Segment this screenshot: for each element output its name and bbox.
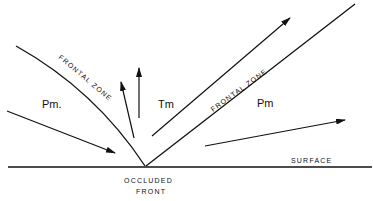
air-mass-pm-left: Pm. — [42, 98, 62, 110]
air-mass-tm: Tm — [158, 98, 174, 110]
occluded-front-label-line2: FRONT — [136, 188, 166, 195]
warm-rising-arrow — [152, 18, 290, 136]
cold-air-arrow-right — [205, 120, 345, 146]
cold-air-arrow-left — [7, 111, 115, 153]
air-mass-pm-right: Pm — [257, 97, 274, 109]
occluded-front-label-line1: OCCLUDED — [124, 177, 173, 184]
upward-arrow-tilted — [121, 82, 134, 138]
surface-label: SURFACE — [291, 157, 332, 164]
occluded-front-diagram: FRONTAL ZONE FRONTAL ZONE Pm. Tm Pm SURF… — [0, 0, 373, 201]
left-frontal-zone-line — [16, 46, 145, 166]
frontal-zone-label-left: FRONTAL ZONE — [57, 53, 113, 102]
